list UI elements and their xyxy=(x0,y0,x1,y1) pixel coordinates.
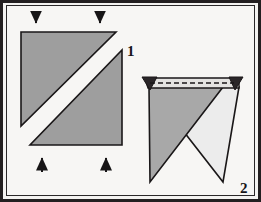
figure-page: 1 2 xyxy=(0,0,261,202)
step-label-1: 1 xyxy=(127,44,135,59)
step-label-2: 2 xyxy=(240,181,248,196)
step-1-group xyxy=(21,12,122,172)
diagram-artwork xyxy=(0,0,261,202)
step-1-bottom-arrows xyxy=(42,158,106,172)
step-2-group xyxy=(142,77,243,182)
step-1-top-arrows xyxy=(36,12,100,23)
